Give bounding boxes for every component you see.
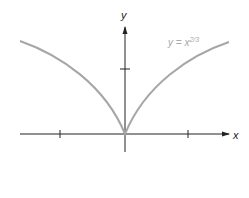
function-graph: x y y = x2/3 [0, 0, 249, 198]
y-axis-label: y [120, 9, 128, 21]
equation-label: y = x2/3 [167, 36, 199, 48]
x-axis-label: x [232, 129, 239, 141]
